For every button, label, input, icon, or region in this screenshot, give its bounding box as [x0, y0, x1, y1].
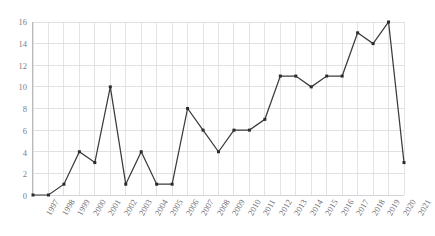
- x-axis-tick-label: 2001: [107, 198, 123, 217]
- plot-area: [32, 22, 404, 196]
- data-point-marker: [93, 161, 96, 164]
- x-axis-tick-label: 1998: [60, 198, 76, 217]
- data-point-marker: [124, 183, 127, 186]
- data-point-marker: [310, 85, 313, 88]
- data-point-marker: [294, 75, 297, 78]
- data-point-marker: [248, 129, 251, 132]
- x-axis-tick-label: 2002: [122, 198, 138, 217]
- data-point-marker: [387, 21, 390, 24]
- data-point-marker: [232, 129, 235, 132]
- x-axis-tick-label: 2000: [91, 198, 107, 217]
- data-point-marker: [341, 75, 344, 78]
- x-axis-tick-label: 2009: [231, 198, 247, 217]
- x-axis-tick-label: 2011: [261, 198, 277, 217]
- x-axis-tick-label: 2016: [339, 198, 355, 217]
- x-axis-tick-label: 2006: [184, 198, 200, 217]
- x-axis-tick-label: 2007: [200, 198, 216, 217]
- x-axis-tick-label: 2015: [324, 198, 340, 217]
- x-axis-tick-label: 2013: [293, 198, 309, 217]
- data-point-marker: [202, 129, 205, 132]
- x-axis-tick-label: 2019: [386, 198, 402, 217]
- x-axis-tick-label: 2004: [153, 198, 169, 217]
- y-axis-tick-label: 10: [19, 83, 28, 92]
- data-point-marker: [325, 75, 328, 78]
- x-axis-tick-label: 2021: [417, 198, 433, 217]
- data-point-marker: [62, 183, 65, 186]
- x-axis-tick-label: 2003: [138, 198, 154, 217]
- data-point-marker: [78, 150, 81, 153]
- data-point-marker: [140, 150, 143, 153]
- x-axis-tick-label: 2014: [308, 198, 324, 217]
- x-axis-tick-label: 2017: [355, 198, 371, 217]
- data-point-marker: [155, 183, 158, 186]
- data-point-marker: [109, 85, 112, 88]
- y-axis: 0246810121416: [0, 0, 27, 236]
- data-point-marker: [372, 42, 375, 45]
- data-point-marker: [279, 75, 282, 78]
- x-axis-tick-label: 1997: [45, 198, 61, 217]
- data-point-marker: [171, 183, 174, 186]
- data-point-marker: [263, 118, 266, 121]
- data-point-marker: [47, 194, 50, 197]
- y-axis-tick-label: 14: [19, 40, 28, 49]
- y-axis-tick-label: 2: [23, 170, 27, 179]
- y-axis-tick-label: 4: [23, 148, 27, 157]
- x-axis-tick-label: 2010: [246, 198, 262, 217]
- x-axis: 1997199819992000200120022003200420052006…: [32, 198, 404, 236]
- data-point-marker: [186, 107, 189, 110]
- series-line: [33, 22, 404, 195]
- x-axis-tick-label: 1999: [76, 198, 92, 217]
- data-point-marker: [217, 150, 220, 153]
- y-axis-tick-label: 12: [19, 61, 28, 70]
- y-axis-tick-label: 6: [23, 127, 27, 136]
- x-axis-tick-label: 2012: [277, 198, 293, 217]
- line-chart: 0246810121416 19971998199920002001200220…: [0, 0, 435, 236]
- x-axis-tick-label: 2008: [215, 198, 231, 217]
- y-axis-tick-label: 8: [23, 105, 27, 114]
- x-axis-tick-label: 2018: [370, 198, 386, 217]
- y-axis-tick-label: 16: [19, 18, 28, 27]
- x-axis-tick-label: 2005: [169, 198, 185, 217]
- x-axis-tick-label: 2020: [401, 198, 417, 217]
- data-point-marker: [356, 31, 359, 34]
- y-axis-tick-label: 0: [23, 192, 27, 201]
- data-point-marker: [32, 194, 35, 197]
- data-point-marker: [403, 161, 406, 164]
- data-series-line: [33, 22, 404, 195]
